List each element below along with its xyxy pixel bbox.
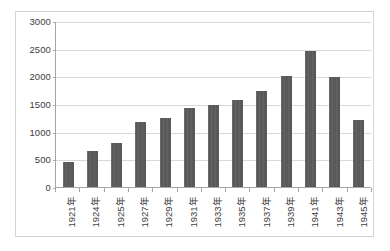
x-axis-label-slot: 1931年: [177, 193, 201, 235]
bar[interactable]: [208, 105, 219, 187]
y-axis-tick-label: 3000: [29, 17, 51, 27]
bar-slot[interactable]: [347, 22, 371, 187]
x-axis-tick-label: 1921年: [66, 196, 77, 227]
x-axis-tick-label: 1927年: [139, 196, 150, 227]
y-axis-tick-label: 2000: [29, 72, 51, 82]
plot-area: [55, 22, 371, 188]
y-axis-tick-label: 1000: [29, 128, 51, 138]
x-axis-label-slot: 1929年: [152, 193, 176, 235]
y-axis-tickmark: [53, 50, 56, 51]
bar[interactable]: [353, 120, 364, 187]
y-axis-tickmark: [53, 22, 56, 23]
x-axis-tick-label: 1939年: [285, 196, 296, 227]
x-axis-tick-label: 1937年: [261, 196, 272, 227]
x-axis-tickmark: [371, 188, 372, 192]
x-axis-tickmark: [177, 188, 178, 192]
bar-slot[interactable]: [129, 22, 153, 187]
x-axis-tick-label: 1945年: [358, 196, 369, 227]
bar[interactable]: [160, 118, 171, 187]
x-axis-label-slot: 1921年: [55, 193, 79, 235]
y-axis-tick-label: 0: [46, 183, 51, 193]
bar-slot[interactable]: [153, 22, 177, 187]
x-axis-tickmark: [274, 188, 275, 192]
bar[interactable]: [305, 51, 316, 187]
bar[interactable]: [329, 77, 340, 187]
x-axis-tickmark: [201, 188, 202, 192]
x-axis-tickmark: [128, 188, 129, 192]
bar[interactable]: [281, 76, 292, 187]
x-axis-tick-label: 1933年: [212, 196, 223, 227]
x-axis-label-slot: 1939年: [274, 193, 298, 235]
x-axis-label-slot: 1935年: [225, 193, 249, 235]
x-axis-tickmark: [225, 188, 226, 192]
x-axis: 1921年1924年1925年1927年1929年1931年1933年1935年…: [55, 193, 371, 235]
y-axis-tick-label: 2500: [29, 45, 51, 55]
x-axis-tickmarks: [55, 188, 371, 192]
x-axis-label-slot: 1941年: [298, 193, 322, 235]
x-axis-tickmark: [152, 188, 153, 192]
bar[interactable]: [256, 91, 267, 187]
x-axis-tick-label: 1941年: [309, 196, 320, 227]
bar-slot[interactable]: [298, 22, 322, 187]
x-axis-tick-label: 1935年: [236, 196, 247, 227]
bar[interactable]: [135, 122, 146, 187]
bar[interactable]: [232, 100, 243, 187]
x-axis-tickmark: [104, 188, 105, 192]
x-axis-tickmark: [249, 188, 250, 192]
x-axis-tick-label: 1931年: [188, 196, 199, 227]
y-axis-tick-label: 500: [35, 155, 51, 165]
bar-slot[interactable]: [250, 22, 274, 187]
bar-slot[interactable]: [80, 22, 104, 187]
x-axis-tick-label: 1925年: [115, 196, 126, 227]
x-axis-label-slot: 1924年: [79, 193, 103, 235]
y-axis-tickmark: [53, 133, 56, 134]
bar-slot[interactable]: [104, 22, 128, 187]
x-axis-label-slot: 1927年: [128, 193, 152, 235]
bar-slot[interactable]: [274, 22, 298, 187]
y-axis-tickmark: [53, 77, 56, 78]
x-axis-tickmark: [347, 188, 348, 192]
bar-slot[interactable]: [226, 22, 250, 187]
bar-slot[interactable]: [323, 22, 347, 187]
x-axis-label-slot: 1945年: [347, 193, 371, 235]
x-axis-tick-label: 1943年: [334, 196, 345, 227]
x-axis-tick-label: 1929年: [163, 196, 174, 227]
bar-series: [56, 22, 371, 187]
x-axis-tickmark: [322, 188, 323, 192]
x-axis-tick-label: 1924年: [90, 196, 101, 227]
y-axis-tickmark: [53, 160, 56, 161]
x-axis-label-slot: 1925年: [104, 193, 128, 235]
y-axis: 300025002000150010005000: [16, 12, 55, 188]
chart-container: 300025002000150010005000 1921年1924年1925年…: [15, 11, 374, 237]
chart-plot-wrapper: 300025002000150010005000 1921年1924年1925年…: [16, 12, 373, 236]
bar[interactable]: [63, 162, 74, 187]
bar[interactable]: [87, 151, 98, 187]
x-axis-tickmark: [298, 188, 299, 192]
y-axis-tickmark: [53, 105, 56, 106]
x-axis-tickmark: [79, 188, 80, 192]
bar[interactable]: [184, 108, 195, 187]
bar-slot[interactable]: [177, 22, 201, 187]
x-axis-tickmark: [55, 188, 56, 192]
x-axis-label-slot: 1937年: [250, 193, 274, 235]
bar[interactable]: [111, 143, 122, 187]
bar-slot[interactable]: [201, 22, 225, 187]
y-axis-tick-label: 1500: [29, 100, 51, 110]
bar-slot[interactable]: [56, 22, 80, 187]
x-axis-label-slot: 1933年: [201, 193, 225, 235]
x-axis-label-slot: 1943年: [322, 193, 346, 235]
